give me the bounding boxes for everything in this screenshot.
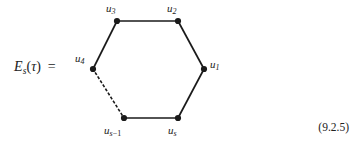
- hexagon-graph: [0, 0, 361, 152]
- graph-edge-u4-us1: [93, 69, 124, 118]
- vertex-label-u2: u2: [167, 2, 177, 18]
- figure-page: Es(τ)= u3 u2 u1 u4 us−1 us (9.2.5): [0, 0, 361, 152]
- graph-edge-u1-us: [178, 69, 204, 118]
- graph-canvas: [0, 0, 361, 152]
- vertex-label-u3: u3: [106, 2, 116, 18]
- graph-vertex-us: [175, 115, 181, 121]
- vertex-label-u2-sub: 2: [173, 7, 177, 16]
- vertex-label-u1: u1: [210, 58, 220, 74]
- graph-edge-u2-u1: [178, 21, 204, 69]
- graph-edge-u4-u3: [93, 21, 117, 69]
- graph-vertex-u2: [175, 18, 181, 24]
- vertex-label-us-sub: s: [174, 129, 177, 138]
- vertex-label-u4: u4: [75, 52, 85, 68]
- vertex-label-us-minus-1-subop: −1: [113, 129, 122, 138]
- vertex-label-us: us: [168, 124, 177, 140]
- vertex-label-us-minus-1: us−1: [104, 124, 121, 140]
- graph-vertex-us1: [121, 115, 127, 121]
- graph-vertex-u4: [90, 66, 96, 72]
- vertex-label-u3-sub: 3: [112, 7, 116, 16]
- graph-vertex-u1: [201, 66, 207, 72]
- vertex-label-u4-sub: 4: [81, 57, 85, 66]
- graph-nodes: [90, 18, 207, 121]
- graph-vertex-u3: [114, 18, 120, 24]
- graph-edges: [93, 21, 204, 118]
- vertex-label-u1-sub: 1: [216, 63, 220, 72]
- equation-number: (9.2.5): [318, 120, 349, 134]
